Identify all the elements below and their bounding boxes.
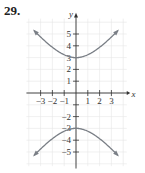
x-tick-label: −2	[48, 96, 58, 106]
y-tick-label: −5	[61, 147, 71, 157]
y-tick-label: −2	[61, 112, 71, 122]
x-tick-label: 1	[86, 96, 91, 106]
y-tick-label: 4	[67, 41, 72, 51]
y-tick-label: 2	[67, 64, 72, 74]
x-tick-label: 3	[109, 96, 114, 106]
x-tick-label: 2	[97, 96, 102, 106]
y-axis-label: y	[68, 9, 73, 19]
hyperbola-graph: xy−3−2−1123−5−4−3−212345	[0, 0, 145, 173]
y-axis-arrow-icon	[74, 13, 78, 18]
x-tick-label: −1	[59, 96, 69, 106]
y-tick-label: 1	[67, 76, 72, 86]
x-axis-arrow-icon	[127, 91, 131, 95]
x-tick-label: −3	[36, 96, 46, 106]
y-tick-label: −4	[61, 135, 71, 145]
y-tick-label: 5	[67, 29, 72, 39]
x-axis-label: x	[130, 89, 135, 99]
